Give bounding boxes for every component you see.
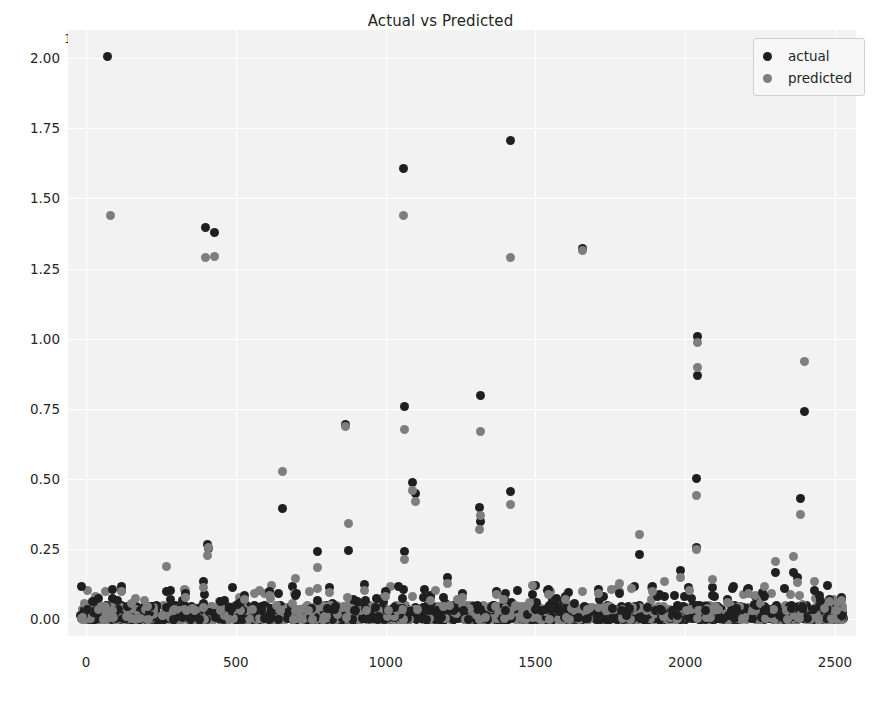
y-axis-tick-label: 1.00 — [8, 331, 60, 347]
data-point — [443, 579, 452, 588]
data-point — [693, 363, 702, 372]
data-point — [825, 597, 834, 606]
data-point — [676, 573, 685, 582]
data-point — [313, 563, 322, 572]
data-point — [320, 612, 329, 621]
data-point — [464, 615, 473, 624]
data-point — [492, 590, 501, 599]
x-axis-tick-label: 1000 — [368, 654, 402, 670]
data-point — [78, 613, 87, 622]
data-point — [459, 606, 468, 615]
data-point — [475, 525, 484, 534]
data-point — [274, 615, 283, 624]
data-point — [361, 596, 370, 605]
data-point — [413, 605, 422, 614]
data-point — [615, 589, 624, 598]
data-point — [660, 592, 669, 601]
data-point — [810, 586, 819, 595]
data-point — [373, 615, 382, 624]
data-point — [795, 614, 804, 623]
data-point — [635, 550, 644, 559]
data-point — [823, 581, 832, 590]
data-point — [162, 562, 171, 571]
data-point — [83, 605, 92, 614]
data-point — [692, 545, 701, 554]
plot-area — [68, 30, 856, 636]
data-point — [617, 606, 626, 615]
y-axis-tick-label: 0.50 — [8, 471, 60, 487]
data-point — [210, 252, 219, 261]
data-point — [476, 391, 485, 400]
data-point — [399, 164, 408, 173]
data-point — [506, 487, 515, 496]
y-axis-tick-label: 2.00 — [8, 50, 60, 66]
data-point — [400, 402, 409, 411]
x-axis-tick-label: 2000 — [668, 654, 702, 670]
data-point — [615, 579, 624, 588]
data-point — [127, 599, 136, 608]
data-point — [313, 584, 322, 593]
data-point — [760, 582, 769, 591]
data-point — [291, 591, 300, 600]
data-point — [186, 615, 195, 624]
legend-label-actual: actual — [788, 48, 830, 64]
data-point — [408, 486, 417, 495]
data-point — [344, 546, 353, 555]
data-point — [578, 587, 587, 596]
data-point — [729, 582, 738, 591]
figure: Actual vs Predicted 1e7 0.000.250.500.75… — [0, 0, 881, 707]
data-point — [250, 589, 259, 598]
data-point — [796, 494, 805, 503]
data-point — [506, 253, 515, 262]
data-point — [343, 593, 352, 602]
data-point — [693, 338, 702, 347]
data-point — [476, 427, 485, 436]
data-point — [344, 519, 353, 528]
data-point — [648, 587, 657, 596]
data-point — [313, 547, 322, 556]
data-point — [570, 599, 579, 608]
data-point — [738, 614, 747, 623]
data-point — [708, 575, 717, 584]
data-point — [670, 591, 679, 600]
data-point — [291, 574, 300, 583]
data-point — [525, 598, 534, 607]
x-axis-tick-label: 2500 — [818, 654, 852, 670]
data-point — [719, 614, 728, 623]
y-axis-tick-label: 1.75 — [8, 120, 60, 136]
data-point — [158, 611, 167, 620]
data-point — [162, 587, 171, 596]
data-point — [545, 615, 554, 624]
data-point — [837, 596, 846, 605]
x-axis-tick-label: 1500 — [518, 654, 552, 670]
data-point — [810, 577, 819, 586]
data-point — [793, 578, 802, 587]
y-axis-ticks: 0.000.250.500.751.001.251.501.752.00 — [0, 0, 60, 707]
data-point — [106, 211, 115, 220]
data-point — [384, 606, 393, 615]
data-point — [360, 586, 369, 595]
data-point — [325, 588, 334, 597]
data-point — [278, 504, 287, 513]
data-point — [594, 589, 603, 598]
data-point — [330, 605, 339, 614]
data-point — [692, 491, 701, 500]
y-axis-tick-label: 0.00 — [8, 611, 60, 627]
data-point — [832, 606, 841, 615]
legend-label-predicted: predicted — [788, 70, 852, 86]
data-point — [265, 614, 274, 623]
data-point — [481, 613, 490, 622]
data-point — [723, 598, 732, 607]
data-point — [692, 474, 701, 483]
data-point — [265, 591, 274, 600]
data-point — [583, 605, 592, 614]
legend-marker-actual — [763, 52, 772, 61]
data-point — [528, 590, 537, 599]
data-point — [809, 605, 818, 614]
data-point — [272, 601, 281, 610]
data-point — [274, 589, 283, 598]
data-point — [761, 605, 770, 614]
data-point — [744, 589, 753, 598]
data-point — [199, 603, 208, 612]
data-point — [166, 595, 175, 604]
